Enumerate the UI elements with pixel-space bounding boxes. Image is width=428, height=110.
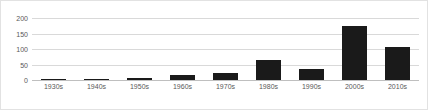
x-axis-tick-label: 2000s <box>333 83 376 91</box>
bar-slot <box>118 18 161 80</box>
bar-slot <box>32 18 75 80</box>
x-axis-tick-label: 1980s <box>247 83 290 91</box>
x-axis-tick-label: 1970s <box>204 83 247 91</box>
bar <box>256 60 280 80</box>
bar-slot <box>333 18 376 80</box>
bar-chart: 200 150 100 50 0 1930s1940s1950s1960s197… <box>0 0 428 110</box>
bar <box>84 79 108 80</box>
y-axis-tick-label: 0 <box>24 77 28 84</box>
x-axis-tick-label: 1990s <box>290 83 333 91</box>
bar-slot <box>247 18 290 80</box>
bar <box>41 79 65 80</box>
bar <box>299 69 323 80</box>
bar-slot <box>290 18 333 80</box>
gridline-baseline-0 <box>32 80 419 81</box>
bar <box>127 78 151 80</box>
x-axis-tick-label: 2010s <box>376 83 419 91</box>
bar <box>342 26 366 80</box>
x-axis: 1930s1940s1950s1960s1970s1980s1990s2000s… <box>32 83 419 91</box>
bar <box>170 75 194 80</box>
bar <box>213 73 237 80</box>
y-axis-tick-label: 50 <box>20 61 28 68</box>
bar-slot <box>376 18 419 80</box>
x-axis-tick-label: 1940s <box>75 83 118 91</box>
y-axis-tick-label: 100 <box>16 46 28 53</box>
bar-slot <box>75 18 118 80</box>
y-axis: 200 150 100 50 0 <box>1 18 28 80</box>
x-axis-tick-label: 1950s <box>118 83 161 91</box>
x-axis-tick-label: 1960s <box>161 83 204 91</box>
bars-layer <box>32 18 419 80</box>
x-axis-tick-label: 1930s <box>32 83 75 91</box>
bar-slot <box>161 18 204 80</box>
bar <box>385 47 409 80</box>
bar-slot <box>204 18 247 80</box>
y-axis-tick-label: 150 <box>16 30 28 37</box>
y-axis-tick-label: 200 <box>16 15 28 22</box>
